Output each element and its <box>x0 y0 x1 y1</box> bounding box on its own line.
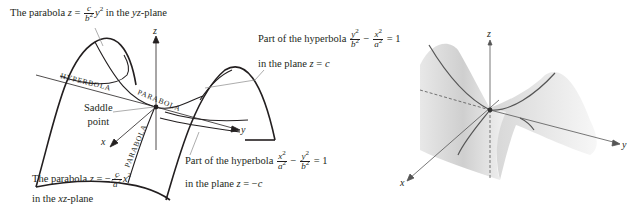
hyperbola-zc-annotation-line2: in the plane z = c <box>258 58 330 70</box>
surface-left-lobe <box>420 44 506 180</box>
xz-parabola-annotation: The parabola z = −ca2x2 <box>32 170 131 189</box>
saddle-point-label: Saddle point <box>84 101 113 129</box>
hyperbola-zc-annotation: Part of the hyperbola y2b2 − x2a2 = 1 <box>258 30 401 49</box>
surface-right-lobe <box>490 72 597 180</box>
yz-parabola-annotation: The parabola z = cb2y2 in the yz-plane <box>10 4 167 23</box>
x-axis-label-right: x <box>399 177 405 188</box>
hyperbola-zminusc-annotation-line2: in the plane z = −c <box>185 178 262 190</box>
fraction: cb2 <box>84 4 94 23</box>
xz-parabola-annotation-line2: in the xz-plane <box>32 193 93 205</box>
saddle-point-marker-right <box>488 108 493 113</box>
hyperbola-zminusc-annotation: Part of the hyperbola x2a2 − y2b2 = 1 <box>185 152 328 171</box>
z-axis-label-right: z <box>486 28 491 39</box>
y-axis-label-right: y <box>621 139 627 150</box>
